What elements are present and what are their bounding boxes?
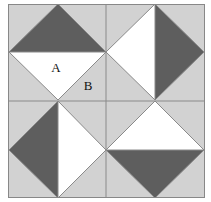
region-label-a: A [51,60,61,75]
figure-root: A B [0,0,211,202]
region-label-b: B [84,78,93,93]
tile-pattern-svg: A B [0,0,211,202]
